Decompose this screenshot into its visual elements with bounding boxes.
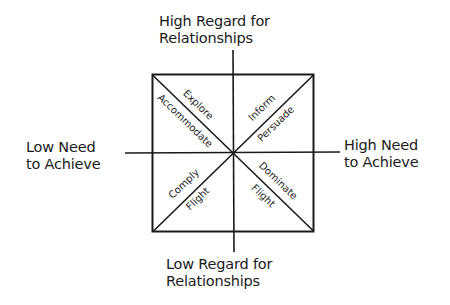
axis-label-left: Low Need to Achieve — [26, 139, 100, 173]
axis-label-right: High Need to Achieve — [344, 137, 418, 171]
axis-label-right-line2: to Achieve — [344, 154, 418, 171]
axis-label-bottom-line1: Low Regard for — [166, 256, 272, 273]
axis-label-bottom: Low Regard for Relationships — [166, 256, 272, 290]
axis-label-top-line1: High Regard for — [159, 13, 270, 30]
axis-label-left-line1: Low Need — [26, 139, 100, 156]
axis-label-bottom-line2: Relationships — [166, 273, 272, 290]
axis-label-top: High Regard for Relationships — [159, 13, 270, 47]
axis-label-right-line1: High Need — [344, 137, 418, 154]
axis-label-left-line2: to Achieve — [26, 156, 100, 173]
vertical-axis — [233, 50, 234, 252]
axis-label-top-line2: Relationships — [159, 30, 270, 47]
